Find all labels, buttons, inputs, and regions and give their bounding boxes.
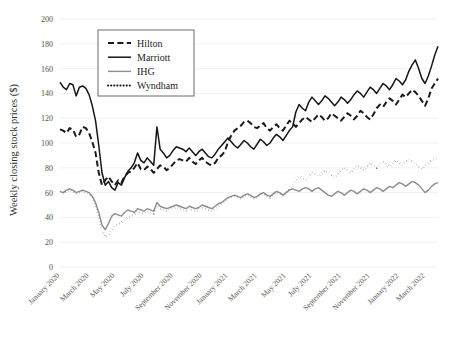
x-axis-tick-labels: January 2020March 2020May 2020July 2020S…	[26, 271, 426, 313]
y-tick-label: 40	[45, 213, 53, 222]
x-tick-label: May 2020	[88, 271, 116, 299]
x-tick-label: January 2022	[365, 271, 400, 306]
chart-container: 020406080100120140160180200 January 2020…	[0, 0, 453, 341]
y-tick-label: 100	[41, 139, 53, 148]
series-line-ihg	[60, 181, 438, 229]
x-tick-label: March 2021	[226, 271, 259, 304]
x-tick-label: March 2020	[58, 271, 91, 304]
y-tick-label: 160	[41, 65, 53, 74]
y-tick-label: 20	[45, 238, 53, 247]
y-tick-label: 80	[45, 164, 53, 173]
chart-legend: HiltonMarriottIHGWyndham	[98, 30, 194, 96]
legend-label-wyndham[interactable]: Wyndham	[137, 80, 178, 91]
legend-label-ihg[interactable]: IHG	[137, 66, 155, 77]
y-tick-label: 200	[41, 15, 53, 24]
x-tick-label: July 2020	[118, 271, 146, 299]
legend-label-hilton[interactable]: Hilton	[137, 38, 163, 49]
y-tick-label: 60	[45, 189, 53, 198]
y-tick-label: 120	[41, 114, 53, 123]
x-tick-label: July 2021	[286, 271, 314, 299]
series-line-wyndham	[60, 158, 438, 237]
y-axis-title: Weekly closing stock prices ($)	[8, 83, 20, 216]
x-tick-label: May 2021	[259, 271, 287, 299]
y-axis-tick-labels: 020406080100120140160180200	[41, 15, 53, 272]
line-chart: 020406080100120140160180200 January 2020…	[0, 0, 453, 341]
x-tick-label: January 2020	[26, 271, 61, 306]
y-tick-label: 0	[49, 263, 53, 272]
y-tick-label: 140	[41, 89, 53, 98]
y-tick-label: 180	[41, 40, 53, 49]
legend-label-marriott[interactable]: Marriott	[137, 52, 171, 63]
